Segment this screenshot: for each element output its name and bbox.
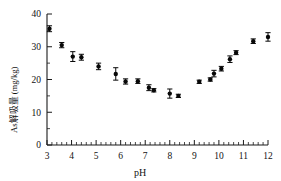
data-point-marker <box>168 91 172 95</box>
data-point <box>47 26 52 32</box>
data-point-marker <box>208 77 212 81</box>
data-point-marker <box>147 85 151 89</box>
data-point <box>227 56 232 63</box>
data-point <box>96 63 101 70</box>
y-axis-label: As解吸量 (mg/kg) <box>8 66 19 133</box>
data-point <box>146 85 151 91</box>
data-point-marker <box>136 79 140 83</box>
x-tick-label: 3 <box>45 151 50 161</box>
data-point-marker <box>266 35 270 39</box>
data-point-marker <box>123 79 127 83</box>
data-point <box>113 68 118 80</box>
x-tick-label: 12 <box>263 151 273 161</box>
data-point-marker <box>114 72 118 76</box>
data-point-marker <box>176 94 180 98</box>
axis-lines <box>47 14 268 145</box>
data-point <box>135 79 140 84</box>
data-point-marker <box>60 43 64 47</box>
chart-figure: As解吸量 (mg/kg) pH 3456789101112010203040 <box>0 0 281 181</box>
data-point-marker <box>79 55 83 59</box>
y-tick-label: 10 <box>32 108 42 118</box>
y-tick-label: 0 <box>36 140 41 150</box>
data-point <box>176 94 181 98</box>
data-point-marker <box>152 88 156 92</box>
data-point <box>123 79 128 84</box>
y-tick-label: 20 <box>32 75 42 85</box>
x-axis-label-text: pH <box>134 167 146 178</box>
data-point <box>59 42 64 47</box>
data-point-marker <box>96 64 100 68</box>
data-points-group <box>47 26 271 98</box>
data-point <box>219 66 224 71</box>
y-tick-label: 30 <box>32 42 42 52</box>
data-point <box>251 39 256 44</box>
data-point <box>211 70 216 77</box>
scatter-plot: As解吸量 (mg/kg) pH 3456789101112010203040 <box>0 0 281 181</box>
x-tick-label: 9 <box>192 151 197 161</box>
data-point-marker <box>71 54 75 58</box>
data-point <box>233 50 238 54</box>
data-point-marker <box>47 27 51 31</box>
axis-tick-labels: 3456789101112010203040 <box>32 9 274 161</box>
data-point-marker <box>251 39 255 43</box>
axis-ticks <box>47 14 268 145</box>
x-tick-label: 6 <box>118 151 123 161</box>
data-point <box>151 88 156 92</box>
data-point <box>208 77 213 81</box>
x-tick-label: 10 <box>214 151 224 161</box>
x-tick-label: 7 <box>143 151 148 161</box>
data-point-marker <box>197 80 201 84</box>
data-point <box>265 33 270 42</box>
data-point <box>197 80 202 84</box>
x-tick-label: 8 <box>167 151 172 161</box>
data-point <box>79 54 84 60</box>
y-tick-label: 40 <box>32 9 42 19</box>
x-tick-label: 5 <box>94 151 99 161</box>
data-point <box>70 52 75 62</box>
data-point-marker <box>234 50 238 54</box>
x-tick-label: 4 <box>69 151 74 161</box>
data-point-marker <box>219 66 223 70</box>
data-point-marker <box>212 71 216 75</box>
data-point-marker <box>228 57 232 61</box>
x-tick-label: 11 <box>239 151 248 161</box>
y-axis-label-text: As解吸量 (mg/kg) <box>8 66 19 133</box>
data-point <box>167 89 172 98</box>
